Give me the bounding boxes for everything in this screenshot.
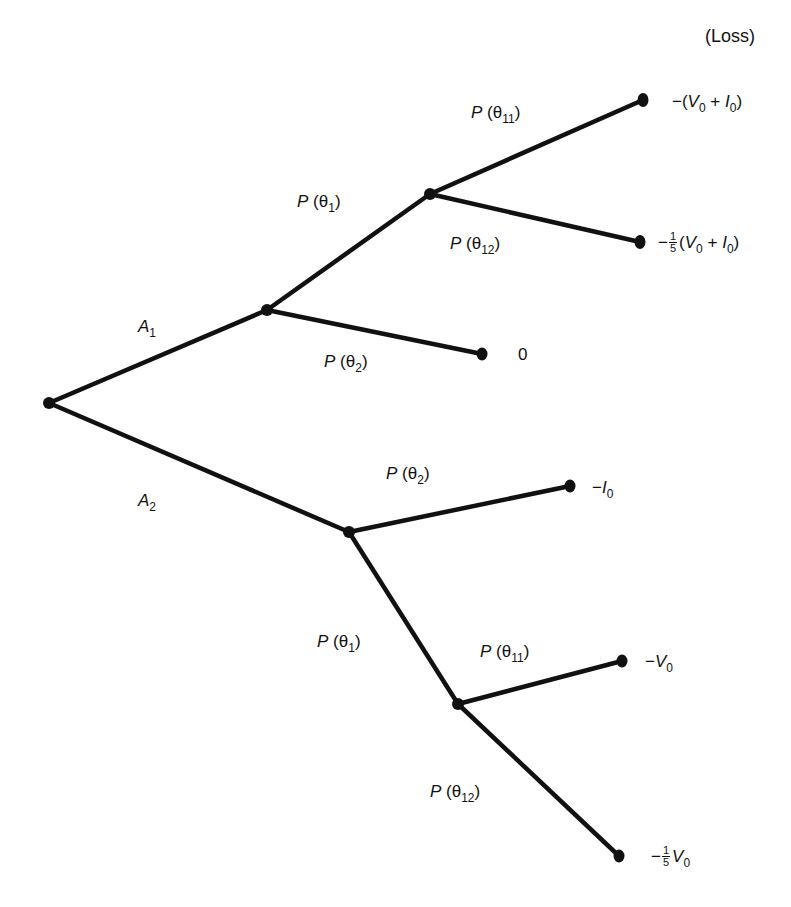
prob-open: (θ <box>482 103 502 122</box>
prob-subscript: 11 <box>511 651 523 665</box>
prob-subscript: 12 <box>481 243 494 257</box>
fraction-denominator: 5 <box>669 243 677 254</box>
prob-subscript: 12 <box>461 791 474 805</box>
prob-close: ) <box>475 782 481 801</box>
minus-sign: − <box>651 847 661 866</box>
a2-theta1-chance-node <box>452 698 464 710</box>
action-a1-label: A1 <box>138 318 156 335</box>
prob-close: ) <box>524 642 530 661</box>
prob-a2-theta11: P (θ11) <box>480 643 529 660</box>
leaf-node <box>635 235 646 249</box>
outcome-a2-theta12: −15V0 <box>651 846 690 869</box>
prob-a1-theta2: P (θ2) <box>324 353 368 370</box>
prob-open: (θ <box>308 192 328 211</box>
edge-root-a1 <box>49 310 267 403</box>
prob-close: ) <box>362 352 368 371</box>
edge-a1-theta2 <box>267 310 482 354</box>
leaf-node <box>565 480 576 493</box>
edge-a2-theta2 <box>349 486 570 532</box>
prob-subscript: 11 <box>502 112 514 126</box>
var-subscript: 0 <box>730 101 737 115</box>
action-symbol: A <box>138 317 149 336</box>
a2-chance-node <box>343 526 355 538</box>
prob-subscript: 2 <box>355 361 362 375</box>
prob-subscript: 2 <box>417 473 424 487</box>
edge-root-a2 <box>49 403 349 532</box>
prob-subscript: 1 <box>348 641 355 655</box>
prob-close: ) <box>495 234 501 253</box>
prob-symbol: P <box>450 234 461 253</box>
edge-a1-theta11 <box>430 100 643 194</box>
prob-symbol: P <box>480 642 491 661</box>
edge-a1-theta1 <box>267 194 430 310</box>
prob-symbol: P <box>471 103 482 122</box>
fraction: 15 <box>662 845 670 868</box>
a1-chance-node <box>261 304 273 316</box>
prob-symbol: P <box>324 352 335 371</box>
edge-a2-theta12 <box>458 704 619 856</box>
outcome-a1-theta12: −15(V0 + I0) <box>658 232 739 255</box>
action-subscript: 2 <box>149 500 156 514</box>
edge-a2-theta1 <box>349 532 458 704</box>
fraction-denominator: 5 <box>662 857 670 868</box>
outcome-a2-theta11: −V0 <box>645 653 673 670</box>
prob-a1-theta1: P (θ1) <box>297 193 341 210</box>
var-v: V <box>685 233 696 252</box>
var-subscript: 0 <box>699 101 706 115</box>
prob-close: ) <box>515 103 521 122</box>
tree-edges <box>0 0 791 907</box>
prob-symbol: P <box>317 632 328 651</box>
action-a2-label: A2 <box>138 492 156 509</box>
prob-a1-theta11: P (θ11) <box>471 104 520 121</box>
prob-open: (θ <box>441 782 461 801</box>
root-node <box>43 397 55 409</box>
prob-open: (θ <box>461 234 481 253</box>
a1-theta1-chance-node <box>424 188 436 200</box>
leaf-node <box>477 348 488 361</box>
var-subscript: 0 <box>696 242 703 256</box>
var-subscript: 0 <box>666 661 673 675</box>
prob-a1-theta12: P (θ12) <box>450 235 500 252</box>
var-subscript: 0 <box>607 487 614 501</box>
paren-close: ) <box>734 233 740 252</box>
outcome-a2-theta2: −I0 <box>592 479 613 496</box>
var-i: I <box>602 478 607 497</box>
prob-open: (θ <box>335 352 355 371</box>
edge-a2-theta11 <box>458 661 622 704</box>
leaf-node <box>617 655 628 668</box>
outcome-prefix: −( <box>672 92 688 111</box>
prob-close: ) <box>424 464 430 483</box>
leaf-node <box>614 850 625 863</box>
prob-close: ) <box>335 192 341 211</box>
prob-open: (θ <box>491 642 511 661</box>
action-symbol: A <box>138 491 149 510</box>
prob-close: ) <box>355 632 361 651</box>
decision-tree-diagram: (Loss) A1 A2 P (θ1) P (θ2) P (θ11) P (θ1… <box>0 0 791 907</box>
prob-a2-theta1: P (θ1) <box>317 633 361 650</box>
leaf-node <box>638 93 649 107</box>
plus-sign: + <box>706 92 725 111</box>
prob-open: (θ <box>328 632 348 651</box>
prob-subscript: 1 <box>328 201 335 215</box>
var-v: V <box>672 847 683 866</box>
minus-sign: − <box>658 233 668 252</box>
prob-symbol: P <box>297 192 308 211</box>
prob-a2-theta12: P (θ12) <box>430 783 480 800</box>
outcome-a1-theta2: 0 <box>518 346 527 363</box>
fraction: 15 <box>669 231 677 254</box>
minus-sign: − <box>592 478 602 497</box>
prob-a2-theta2: P (θ2) <box>386 465 430 482</box>
loss-column-header: (Loss) <box>705 27 755 45</box>
action-subscript: 1 <box>149 326 156 340</box>
var-subscript: 0 <box>727 242 734 256</box>
prob-open: (θ <box>397 464 417 483</box>
var-v: V <box>688 92 699 111</box>
prob-symbol: P <box>386 464 397 483</box>
var-v: V <box>655 652 666 671</box>
plus-sign: + <box>703 233 722 252</box>
var-subscript: 0 <box>683 856 690 870</box>
prob-symbol: P <box>430 782 441 801</box>
outcome-suffix: ) <box>736 92 742 111</box>
minus-sign: − <box>645 652 655 671</box>
outcome-a1-theta11: −(V0 + I0) <box>672 93 742 110</box>
